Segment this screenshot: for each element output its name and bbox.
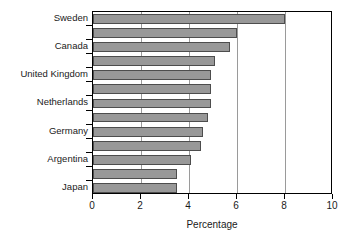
bar xyxy=(93,183,177,193)
y-axis-tick xyxy=(86,110,92,111)
bar-chart: SwedenCanadaUnited KingdomNetherlandsGer… xyxy=(0,0,351,243)
y-axis-label: Sweden xyxy=(54,13,88,23)
x-axis-tick-label: 6 xyxy=(221,200,251,212)
x-axis-tick-label: 10 xyxy=(317,200,347,212)
bar xyxy=(93,56,215,66)
x-axis-tick xyxy=(332,194,333,199)
bar xyxy=(93,127,203,137)
bar xyxy=(93,42,230,52)
y-axis-tick xyxy=(86,166,92,167)
y-axis-label: Japan xyxy=(62,182,88,192)
y-axis-label: Argentina xyxy=(47,154,88,164)
x-axis-tick xyxy=(236,194,237,199)
bar xyxy=(93,70,211,80)
y-axis-tick xyxy=(86,53,92,54)
bar xyxy=(93,99,211,109)
bar xyxy=(93,14,285,24)
bar xyxy=(93,84,211,94)
bars-group xyxy=(93,12,331,193)
bar xyxy=(93,155,191,165)
y-axis-tick xyxy=(86,25,92,26)
x-axis-title: Percentage xyxy=(92,219,332,230)
y-axis-label: Canada xyxy=(55,41,88,51)
y-axis-label: United Kingdom xyxy=(20,69,88,79)
y-axis-tick xyxy=(86,81,92,82)
x-axis-tick-label: 2 xyxy=(125,200,155,212)
x-axis-tick-label: 0 xyxy=(77,200,107,212)
x-axis-tick-label: 8 xyxy=(269,200,299,212)
x-axis-tick xyxy=(140,194,141,199)
plot-area xyxy=(92,11,332,194)
y-axis-label: Netherlands xyxy=(37,97,88,107)
y-axis-tick xyxy=(86,138,92,139)
x-axis-tick xyxy=(284,194,285,199)
x-axis-tick-label: 4 xyxy=(173,200,203,212)
bar xyxy=(93,169,177,179)
bar xyxy=(93,113,208,123)
x-axis-tick xyxy=(188,194,189,199)
bar xyxy=(93,141,201,151)
y-axis-label: Germany xyxy=(49,126,88,136)
x-axis-tick xyxy=(92,194,93,199)
bar xyxy=(93,28,237,38)
